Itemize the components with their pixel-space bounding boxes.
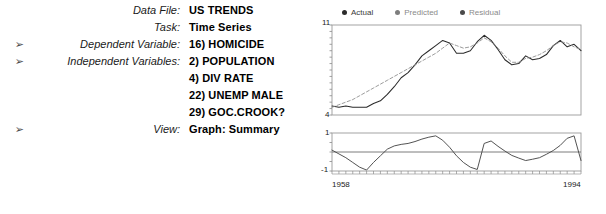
legend-item-residual[interactable]: Residual <box>460 8 500 17</box>
legend-label: Residual <box>469 8 500 17</box>
chart-legend: Actual Predicted Residual <box>342 8 522 17</box>
legend-item-predicted[interactable]: Predicted <box>395 8 438 17</box>
info-label: Independent Variables: <box>30 55 189 67</box>
legend-marker-icon <box>342 10 347 15</box>
info-row-independent-variables[interactable]: ➢ Independent Variables: 2) POPULATION <box>0 55 306 72</box>
legend-label: Actual <box>351 8 373 17</box>
legend-item-actual[interactable]: Actual <box>342 8 373 17</box>
info-label: View: <box>30 123 189 135</box>
info-value: 2) POPULATION <box>189 55 306 67</box>
info-value: 4) DIV RATE <box>189 72 306 84</box>
residual-chart-canvas <box>318 128 606 194</box>
arrow-marker-icon: ➢ <box>0 39 30 50</box>
info-label: Task: <box>30 21 189 33</box>
main-line-chart[interactable]: 11 4 <box>318 18 606 124</box>
screenshot-root: Data File: US TRENDS Task: Time Series ➢… <box>0 0 606 214</box>
info-label: Data File: <box>30 4 189 16</box>
info-value: 16) HOMICIDE <box>189 38 306 50</box>
info-row-independent-variable-2: 4) DIV RATE <box>0 72 306 89</box>
legend-marker-icon <box>460 10 465 15</box>
legend-marker-icon <box>395 10 400 15</box>
info-value: Time Series <box>189 21 306 33</box>
info-value: Graph: Summary <box>189 123 306 135</box>
arrow-marker-icon: ➢ <box>0 56 30 67</box>
arrow-marker-icon: ➢ <box>0 124 30 135</box>
info-row-data-file: Data File: US TRENDS <box>0 4 306 21</box>
info-label: Dependent Variable: <box>30 38 189 50</box>
analysis-summary-panel: Data File: US TRENDS Task: Time Series ➢… <box>0 4 306 134</box>
legend-label: Predicted <box>404 8 438 17</box>
info-value: 22) UNEMP MALE <box>189 89 306 101</box>
time-series-graph-panel: Actual Predicted Residual 11 4 1 -1 1958… <box>318 0 606 214</box>
info-row-independent-variable-3: 22) UNEMP MALE <box>0 89 306 106</box>
info-row-independent-variable-4: 29) GOC.CROOK? <box>0 106 306 123</box>
info-value: 29) GOC.CROOK? <box>189 106 306 118</box>
info-value: US TRENDS <box>189 4 306 16</box>
residual-line-chart[interactable]: 1 -1 1958 1994 <box>318 128 606 194</box>
main-chart-canvas <box>318 18 606 124</box>
info-row-view[interactable]: ➢ View: Graph: Summary <box>0 123 306 140</box>
info-row-task: Task: Time Series <box>0 21 306 38</box>
info-row-dependent-variable[interactable]: ➢ Dependent Variable: 16) HOMICIDE <box>0 38 306 55</box>
